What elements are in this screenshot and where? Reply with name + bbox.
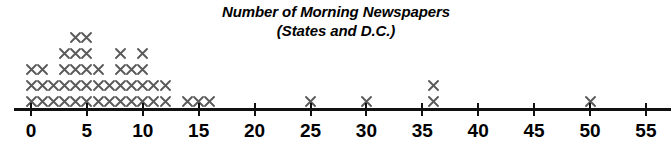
x-axis-tick [645, 103, 647, 116]
data-point-x-mark [114, 47, 127, 60]
x-axis-tick [142, 103, 144, 116]
x-axis-tick-label: 55 [626, 120, 666, 142]
x-axis-tick [30, 103, 32, 116]
x-axis-tick [421, 103, 423, 116]
x-axis-tick-label: 10 [123, 120, 163, 142]
x-axis-line [14, 108, 671, 111]
x-axis-tick-label: 20 [235, 120, 275, 142]
data-point-x-mark [80, 47, 93, 60]
x-axis-tick [533, 103, 535, 116]
plot-area: 0510152025303540455055 [0, 0, 671, 149]
data-point-x-mark [203, 95, 216, 108]
x-axis-tick [198, 103, 200, 116]
x-axis-tick [589, 103, 591, 116]
x-axis-tick-label: 5 [67, 120, 107, 142]
x-axis-tick [86, 103, 88, 116]
x-axis-tick [254, 103, 256, 116]
data-point-x-mark [427, 95, 440, 108]
x-axis-tick-label: 50 [570, 120, 610, 142]
x-axis-tick-label: 40 [458, 120, 498, 142]
dotplot-figure: Number of Morning Newspapers (States and… [0, 0, 671, 149]
data-point-x-mark [80, 31, 93, 44]
x-axis-tick [365, 103, 367, 116]
data-point-x-mark [136, 63, 149, 76]
data-point-x-mark [159, 95, 172, 108]
data-point-x-mark [36, 63, 49, 76]
data-point-x-mark [92, 63, 105, 76]
x-axis-tick [477, 103, 479, 116]
x-axis-tick-label: 35 [402, 120, 442, 142]
x-axis-tick-label: 45 [514, 120, 554, 142]
x-axis-tick [310, 103, 312, 116]
x-axis-tick-label: 25 [291, 120, 331, 142]
data-point-x-mark [159, 79, 172, 92]
x-axis-tick-label: 15 [179, 120, 219, 142]
data-point-x-mark [136, 47, 149, 60]
x-axis-tick-label: 30 [346, 120, 386, 142]
x-axis-tick-label: 0 [11, 120, 51, 142]
data-point-x-mark [427, 79, 440, 92]
